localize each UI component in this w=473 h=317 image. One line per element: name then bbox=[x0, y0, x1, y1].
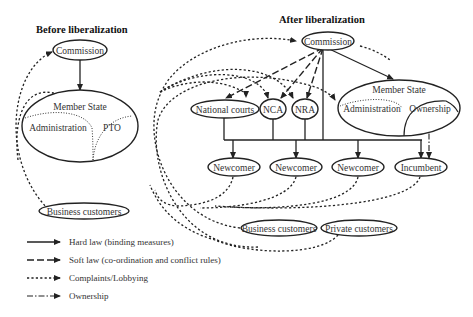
after-panel: After liberalization Commissi bbox=[150, 14, 460, 251]
softlaw-to-nca bbox=[281, 48, 323, 98]
liberalization-diagram: Before liberalization Commission Member … bbox=[0, 0, 473, 317]
incumbent-label: Incumbent bbox=[401, 163, 442, 173]
complaint-to-nca bbox=[160, 75, 268, 98]
nca-label: NCA bbox=[263, 105, 283, 115]
before-pto-label: PTO bbox=[103, 123, 121, 133]
private-customers-complaint bbox=[150, 185, 338, 251]
complaint-to-commission bbox=[154, 38, 296, 228]
softlaw-to-national-courts bbox=[226, 48, 323, 98]
legend-complaints-label: Complaints/Lobbying bbox=[69, 273, 149, 283]
incumbent-complaint bbox=[215, 177, 420, 208]
legend: Hard law (binding measures) Soft law (co… bbox=[27, 237, 221, 301]
legend-ownership-label: Ownership bbox=[69, 291, 109, 301]
after-member-state-label: Member State bbox=[372, 85, 426, 95]
before-business-customers-label: Business customers bbox=[47, 207, 122, 217]
before-administration-label: Administration bbox=[29, 123, 87, 133]
after-commission-label: Commission bbox=[304, 37, 352, 47]
before-panel: Before liberalization Commission Member … bbox=[16, 24, 138, 219]
commission-to-ms-dotted bbox=[360, 46, 390, 60]
newcomer1-complaint bbox=[155, 177, 233, 206]
newcomer-label-1: Newcomer bbox=[213, 163, 256, 173]
nra-label: NRA bbox=[295, 105, 315, 115]
newcomer-label-3: Newcomer bbox=[337, 163, 380, 173]
national-courts-label: National courts bbox=[196, 105, 255, 115]
after-business-customers-label: Business customers bbox=[242, 224, 317, 234]
newcomer2-complaint bbox=[200, 177, 296, 208]
legend-softlaw-label: Soft law (co-ordination and conflict rul… bbox=[69, 255, 221, 265]
legend-hardlaw-label: Hard law (binding measures) bbox=[69, 237, 174, 247]
after-administration-label: Administration bbox=[343, 104, 401, 114]
private-customers-label: Private customers bbox=[325, 224, 393, 234]
hardlaw-to-member-state bbox=[325, 47, 393, 79]
before-member-state-label: Member State bbox=[53, 102, 107, 112]
before-commission-label: Commission bbox=[56, 46, 104, 56]
newcomer-label-2: Newcomer bbox=[275, 163, 318, 173]
before-title: Before liberalization bbox=[36, 24, 128, 35]
after-ownership-label: Ownership bbox=[409, 104, 451, 114]
after-title: After liberalization bbox=[279, 14, 365, 25]
